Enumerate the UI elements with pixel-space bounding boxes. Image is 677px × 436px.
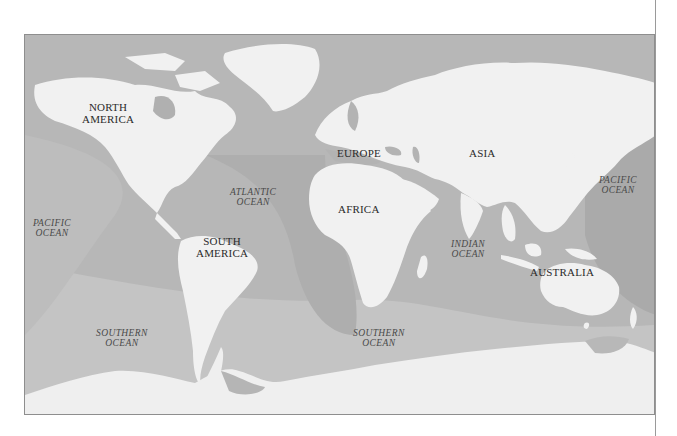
label-south-america: SOUTH AMERICA: [196, 235, 248, 259]
label-asia: ASIA: [469, 147, 495, 159]
label-north-america: NORTH AMERICA: [82, 101, 134, 125]
label-southern-ocean-east: SOUTHERN OCEAN: [353, 328, 405, 349]
page-divider: [655, 0, 656, 436]
label-southern-ocean-west: SOUTHERN OCEAN: [96, 328, 148, 349]
label-indian-ocean: INDIAN OCEAN: [451, 239, 485, 260]
world-map: NORTH AMERICA SOUTH AMERICA EUROPE ASIA …: [24, 34, 655, 415]
label-europe: EUROPE: [337, 147, 381, 159]
label-africa: AFRICA: [338, 203, 380, 215]
label-pacific-ocean-west: PACIFIC OCEAN: [33, 218, 71, 239]
label-pacific-ocean-east: PACIFIC OCEAN: [599, 175, 637, 196]
label-atlantic-ocean: ATLANTIC OCEAN: [230, 187, 276, 208]
map-graphic: [25, 35, 655, 415]
label-australia: AUSTRALIA: [530, 266, 594, 278]
cut-off-header-text: · ·: [520, 0, 620, 4]
